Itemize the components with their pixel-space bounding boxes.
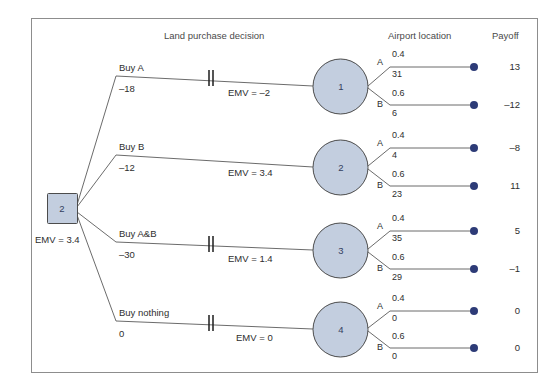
outcome-arm-n4-b [368,331,474,348]
outcome-probability-n4-b: 0.6 [392,332,405,341]
header-land-purchase-decision: Land purchase decision [164,31,264,41]
payoff-value-n3-a: 5 [492,226,520,236]
outcome-letter-n4-b: B [377,343,383,352]
outcome-letter-n3-a: A [377,222,383,231]
payoff-value-n1-b: –12 [492,100,520,110]
payoff-value-n3-b: –1 [492,264,520,274]
outcome-probability-n1-b: 0.6 [392,89,405,98]
terminal-dot-n2-a [470,144,478,152]
connector-root-to-buy-b [77,155,116,207]
outcome-value-n4-a: 0 [392,314,397,323]
outcome-letter-n3-b: B [377,264,383,273]
payoff-value-n1-a: 13 [492,62,520,72]
branch-label-buy-b: Buy B [119,142,144,152]
branch-cost-buy-a: –18 [119,84,135,94]
terminal-dot-n1-a [470,63,478,71]
terminal-dot-n4-b [470,344,478,352]
figure-border [32,19,538,373]
branch-arm-buy-ab [116,242,313,250]
branch-emv-buy-nothing: EMV = 0 [236,333,273,343]
outcome-arm-n3-b [368,252,474,269]
outcome-letter-n2-b: B [377,181,383,190]
connector-root-to-buy-ab [77,212,116,242]
outcome-arm-n2-a [368,148,474,166]
terminal-dot-n4-a [470,307,478,315]
chance-node-label-4: 4 [326,325,356,335]
outcome-arm-n3-a [368,231,474,249]
chance-node-label-2: 2 [326,163,356,173]
prune-marks [209,70,213,331]
outcome-probability-n3-a: 0.4 [392,214,405,223]
branch-emv-buy-ab: EMV = 1.4 [228,254,273,264]
branch-emv-buy-b: EMV = 3.4 [228,168,273,178]
decision-node-label: 2 [47,204,77,214]
outcome-letter-n4-a: A [377,302,383,311]
outcome-arm-n4-a [368,311,474,328]
outcome-value-n2-b: 23 [392,190,402,199]
branch-arm-buy-b [116,155,313,167]
header-payoff: Payoff [492,31,519,41]
terminal-dot-n2-b [470,182,478,190]
payoff-value-n4-a: 0 [492,306,520,316]
outcome-arm-n1-b [368,88,474,105]
terminal-dot-n1-b [470,101,478,109]
payoff-value-n4-b: 0 [492,343,520,353]
chance-node-label-3: 3 [326,246,356,256]
outcome-value-n4-b: 0 [392,352,397,361]
branch-label-buy-a: Buy A [119,63,144,73]
connector-root-to-buy-a [77,76,116,205]
outcome-value-n3-a: 35 [392,234,402,243]
outcome-value-n1-a: 31 [392,70,402,79]
branch-cost-buy-ab: –30 [119,250,135,260]
decision-node-emv: EMV = 3.4 [35,235,80,245]
outcome-arm-n1-a [368,67,474,86]
outcome-letter-n1-b: B [377,100,383,109]
branch-cost-buy-nothing: 0 [119,329,124,339]
outcome-letter-n2-a: A [377,139,383,148]
outcome-probability-n4-a: 0.4 [392,294,405,303]
terminal-dots [470,63,478,352]
header-airport-location: Airport location [388,31,451,41]
tree-graphics [0,0,560,387]
decision-tree-figure: Land purchase decision Airport location … [0,0,560,387]
branch-emv-buy-a: EMV = –2 [228,88,270,98]
outcome-probability-n3-b: 0.6 [392,253,405,262]
outcome-letter-n1-a: A [377,58,383,67]
outcome-value-n2-a: 4 [392,151,397,160]
outcome-probability-n2-b: 0.6 [392,170,405,179]
terminal-dot-n3-a [470,227,478,235]
terminal-dot-n3-b [470,265,478,273]
branch-cost-buy-b: –12 [119,163,135,173]
branch-arm-buy-a [116,76,313,86]
outcome-value-n3-b: 29 [392,273,402,282]
outcome-value-n1-b: 6 [392,109,397,118]
chance-node-label-1: 1 [326,82,356,92]
outcome-arm-n2-b [368,169,474,186]
connector-root-to-buy-nothing [77,215,116,321]
branch-label-buy-ab: Buy A&B [119,229,157,239]
payoff-value-n2-b: 11 [492,181,520,191]
payoff-value-n2-a: –8 [492,143,520,153]
branch-label-buy-nothing: Buy nothing [119,308,169,318]
outcome-probability-n2-a: 0.4 [392,131,405,140]
outcome-probability-n1-a: 0.4 [392,50,405,59]
branch-arm-buy-nothing [116,321,313,329]
